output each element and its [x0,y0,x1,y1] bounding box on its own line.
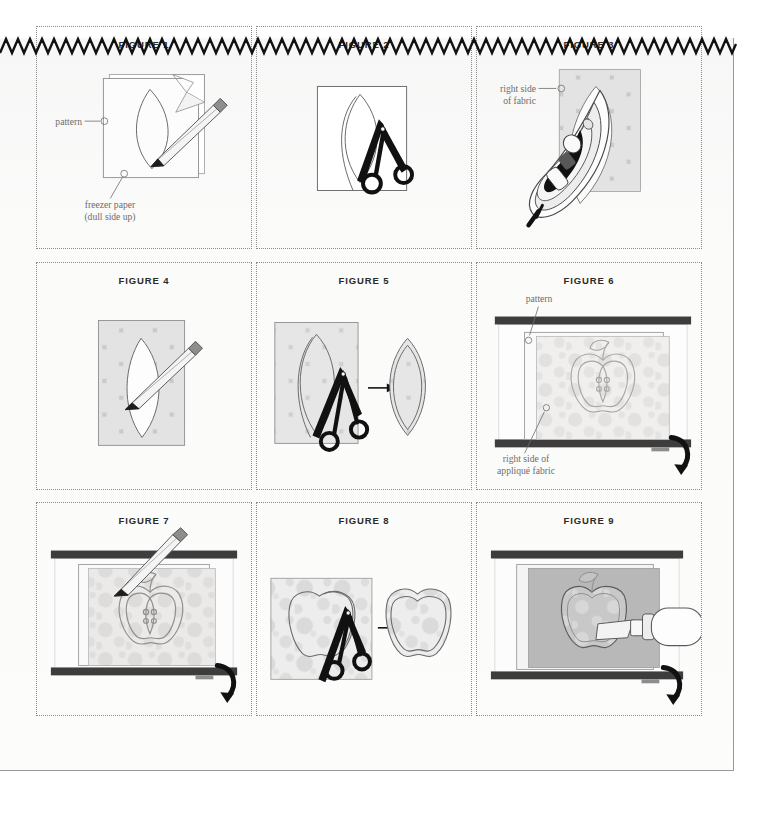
label-freezer-paper-note: (dull side up) [51,211,169,223]
figure-cell-8: FIGURE 8 [256,502,472,716]
figure-3-illustration [477,27,701,248]
zigzag-top-edge [0,34,744,58]
figure-cell-3: FIGURE 3 [476,26,702,249]
figure-5-illustration [257,263,471,489]
figure-cell-7: FIGURE 7 [36,502,252,716]
figure-cell-6: FIGURE 6 [476,262,702,490]
figure-8-illustration [257,503,471,715]
label-pattern: pattern [505,293,573,305]
figure-2-illustration [257,27,471,248]
label-right-side-fabric-line1: right side [477,83,536,95]
figure-cell-4: FIGURE 4 [36,262,252,490]
figure-4-illustration [37,263,251,489]
figure-cell-5: FIGURE 5 [256,262,472,490]
figures-grid: FIGURE 1 [36,26,718,716]
label-freezer-paper: freezer paper [51,199,169,211]
label-right-side-applique-line1: right side of [477,453,575,465]
figure-cell-2: FIGURE 2 [256,26,472,249]
figure-cell-9: FIGURE 9 [476,502,702,716]
instruction-page: FIGURE 1 [0,0,766,814]
figure-7-illustration [37,503,251,715]
label-pattern: pattern [37,116,82,128]
figure-9-illustration [477,503,701,715]
figure-cell-1: FIGURE 1 [36,26,252,249]
label-right-side-applique-line2: appliqué fabric [477,465,575,477]
label-right-side-fabric-line2: of fabric [477,95,536,107]
